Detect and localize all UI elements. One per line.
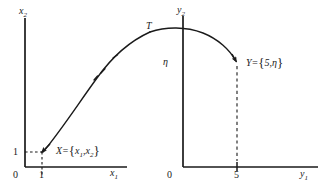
- left-x-tick-label-1: 1: [39, 170, 44, 180]
- transformation-curve-left: [43, 32, 150, 152]
- right-x-axis-label: y1: [300, 169, 308, 182]
- point-x-label: X={x1,x2}: [56, 144, 100, 159]
- left-y-axis-label: x2: [19, 6, 27, 19]
- transformation-figure: x2 x1 1 0 1 X={x1,x2} T y2 y1 0 5 η Y={5…: [0, 0, 328, 189]
- operator-t-label: T: [146, 21, 152, 31]
- arrow-to-point-x: [42, 144, 51, 153]
- right-y-axis-label: y2: [177, 5, 185, 18]
- arrow-to-point-y: [232, 54, 237, 62]
- right-y-axis-label-sub: 2: [181, 10, 185, 18]
- right-origin-label: 0: [167, 170, 172, 180]
- left-y-axis-label-sub: 2: [23, 11, 27, 19]
- curve-segment-ascending: [43, 32, 150, 152]
- figure-canvas: [0, 0, 328, 189]
- point-y-label: Y={5,η}: [246, 56, 283, 69]
- curve-direction-tick-c: [113, 55, 118, 58]
- left-point-arrow: [42, 144, 51, 153]
- left-x-axis-label-sub: 1: [114, 173, 118, 181]
- left-x-axis-label: x1: [110, 168, 118, 181]
- left-y-tick-label-1: 1: [13, 147, 18, 157]
- left-origin-label: 0: [13, 170, 18, 180]
- right-y-tick-label-eta: η: [163, 57, 168, 67]
- point-y-close-brace: }: [277, 55, 283, 70]
- right-panel-axes: [183, 16, 318, 171]
- right-x-axis-label-sub: 1: [304, 174, 308, 182]
- point-x-close-brace: }: [94, 143, 100, 158]
- right-x-tick-label-5: 5: [234, 170, 239, 180]
- point-x-equals: =: [62, 145, 69, 156]
